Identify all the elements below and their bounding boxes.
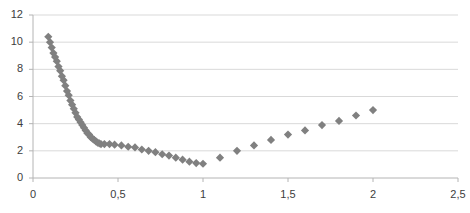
y-tick-label: 0 <box>1 171 23 183</box>
data-point <box>131 143 139 151</box>
plot-area <box>0 0 470 213</box>
data-point <box>284 130 292 138</box>
data-point <box>172 154 180 162</box>
data-point <box>145 147 153 155</box>
data-point-markers <box>44 33 377 168</box>
data-point <box>250 141 258 149</box>
x-tick-label: 0 <box>18 188 48 200</box>
data-point <box>301 126 309 134</box>
data-point <box>165 151 173 159</box>
data-point <box>124 143 132 151</box>
data-point <box>158 150 166 158</box>
y-tick-label: 6 <box>1 90 23 102</box>
data-point <box>117 141 125 149</box>
gridlines <box>33 15 458 151</box>
y-tick-label: 8 <box>1 62 23 74</box>
data-point <box>352 111 360 119</box>
y-tick-label: 10 <box>1 35 23 47</box>
data-point <box>216 154 224 162</box>
data-point <box>192 159 200 167</box>
y-tick-label: 2 <box>1 144 23 156</box>
data-point <box>267 136 275 144</box>
data-point <box>199 160 207 168</box>
y-tick-marks <box>29 15 33 178</box>
x-tick-marks <box>33 178 458 182</box>
data-point <box>185 158 193 166</box>
data-point <box>179 156 187 164</box>
x-tick-label: 2 <box>358 188 388 200</box>
y-tick-label: 4 <box>1 117 23 129</box>
data-point <box>318 121 326 129</box>
data-point <box>151 148 159 156</box>
x-tick-label: 2,5 <box>443 188 470 200</box>
y-tick-label: 12 <box>1 8 23 20</box>
scatter-chart: 024681012 00,511,522,5 <box>0 0 470 213</box>
data-point <box>111 141 119 149</box>
x-tick-label: 1 <box>188 188 218 200</box>
data-point <box>138 145 146 153</box>
data-point <box>369 106 377 114</box>
data-point <box>233 147 241 155</box>
x-tick-label: 1,5 <box>273 188 303 200</box>
x-tick-label: 0,5 <box>103 188 133 200</box>
